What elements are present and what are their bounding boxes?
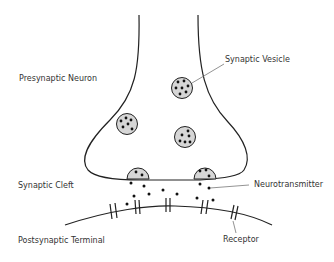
postsynaptic-terminal-label: Postsynaptic Terminal [18, 236, 105, 245]
presynaptic-neuron-label: Presynaptic Neuron [19, 74, 97, 83]
synapse-diagram [0, 0, 334, 262]
synaptic-vesicle-top [172, 78, 193, 99]
neurotransmitter-leader [210, 185, 249, 188]
presynaptic-neuron-outline [84, 15, 247, 180]
fusing-vesicle-left [127, 168, 149, 179]
receptor-leader [233, 221, 236, 233]
vesicle-leader [192, 64, 224, 83]
synaptic-cleft-label: Synaptic Cleft [18, 181, 74, 190]
synaptic-vesicle-left [117, 114, 138, 135]
neurotransmitter-label: Neurotransmitter [254, 180, 323, 189]
postsynaptic-membrane [65, 206, 272, 225]
receptor-label: Receptor [223, 235, 259, 244]
fusing-vesicle-right [194, 168, 216, 179]
synaptic-vesicle-right [175, 127, 196, 148]
synaptic-vesicle-label: Synaptic Vesicle [225, 55, 290, 64]
